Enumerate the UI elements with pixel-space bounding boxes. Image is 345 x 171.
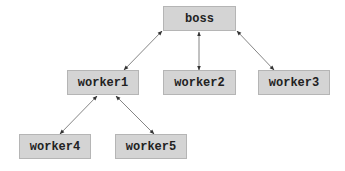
node-worker3: worker3 <box>258 70 330 95</box>
node-boss: boss <box>163 6 236 31</box>
edge-boss-worker3 <box>237 31 274 70</box>
node-worker2: worker2 <box>163 70 236 95</box>
node-worker1: worker1 <box>67 70 139 95</box>
node-worker5: worker5 <box>115 134 187 159</box>
edge-boss-worker1 <box>124 31 162 70</box>
node-worker4: worker4 <box>19 134 91 159</box>
edge-worker1-worker4 <box>60 96 97 134</box>
edge-worker1-worker5 <box>116 96 154 134</box>
